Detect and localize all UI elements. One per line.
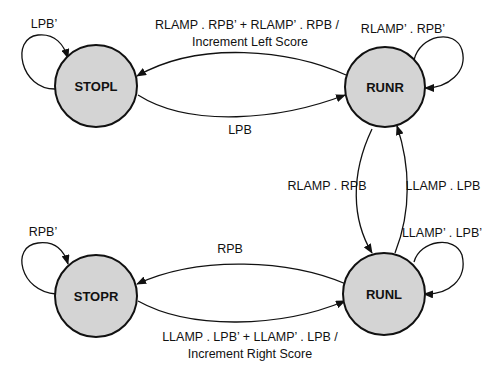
transition-runr-to-stopl: RLAMP . RPB’ + RLAMP’ . RPB / Increment … (137, 18, 346, 76)
state-label-stopr: STOPR (74, 289, 119, 304)
label-runl-to-runr: LLAMP . LPB (406, 179, 481, 193)
state-stopl: STOPL (55, 45, 137, 127)
label-stopr-to-runl-line1: LLAMP . LPB’ + LLAMP’ . LPB / (162, 330, 338, 344)
label-stopl-self: LPB’ (31, 17, 57, 31)
label-runr-to-stopl-line1: RLAMP . RPB’ + RLAMP’ . RPB / (155, 18, 339, 32)
state-label-runr: RUNR (366, 80, 404, 95)
transition-runr-to-runl: RLAMP . RPB (288, 129, 372, 253)
transition-runl-to-stopr: RPB (137, 242, 346, 284)
state-label-runl: RUNL (366, 287, 402, 302)
label-stopr-self: RPB’ (29, 225, 57, 239)
state-stopr: STOPR (55, 255, 137, 337)
label-runr-self: RLAMP’ . RPB’ (361, 22, 445, 36)
transition-stopr-to-runl: LLAMP . LPB’ + LLAMP’ . LPB / Increment … (138, 301, 345, 361)
label-stopl-to-runr: LPB (228, 123, 252, 137)
state-diagram: LPB’ RLAMP . RPB’ + RLAMP’ . RPB / Incre… (0, 0, 489, 370)
label-runr-to-stopl-line2: Increment Left Score (192, 35, 308, 49)
state-label-stopl: STOPL (74, 79, 117, 94)
state-runr: RUNR (345, 47, 425, 127)
label-runr-to-runl: RLAMP . RPB (288, 179, 367, 193)
label-stopr-to-runl-line2: Increment Right Score (188, 347, 312, 361)
transition-stopl-to-runr: LPB (138, 95, 345, 137)
state-runl: RUNL (343, 253, 425, 335)
label-runl-self: LLAMP’ . LPB’ (402, 226, 482, 240)
label-runl-to-stopr: RPB (217, 242, 243, 256)
